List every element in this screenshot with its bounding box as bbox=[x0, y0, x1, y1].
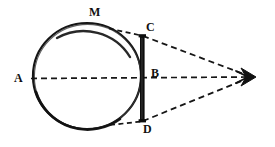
eye-icon bbox=[236, 68, 256, 86]
figure-canvas: A M C B D bbox=[0, 0, 275, 147]
chord-bar-highlight bbox=[141, 38, 142, 119]
axis-ray-line bbox=[31, 77, 245, 79]
sphere-arc-thick-bottom bbox=[36, 92, 120, 130]
lower-ray-line bbox=[143, 80, 245, 122]
label-D: D bbox=[143, 123, 152, 135]
label-C: C bbox=[146, 21, 155, 33]
chord-cap-top bbox=[139, 34, 146, 37]
label-A: A bbox=[14, 72, 23, 84]
tangent-upper-line bbox=[109, 29, 141, 36]
label-M: M bbox=[89, 6, 100, 18]
optics-diagram-svg bbox=[0, 0, 275, 147]
label-B: B bbox=[151, 67, 159, 79]
